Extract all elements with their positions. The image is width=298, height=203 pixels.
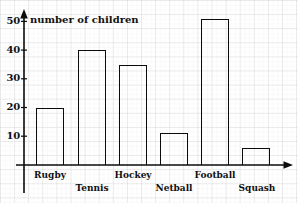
bar-tennis[interactable]	[78, 50, 106, 165]
bar-squash[interactable]	[242, 148, 270, 165]
bar-football[interactable]	[201, 19, 229, 165]
y-axis-title: number of children	[30, 14, 139, 25]
x-label-football: Football	[188, 170, 242, 180]
x-label-squash: Squash	[232, 183, 282, 193]
x-label-rugby: Rugby	[26, 170, 74, 180]
y-tick-label-20: 20	[0, 101, 20, 112]
bar-hockey[interactable]	[119, 65, 147, 165]
bar-rugby[interactable]	[36, 108, 64, 165]
bar-chart: number of children 50 40 30 20 10 Rugby …	[0, 0, 298, 203]
y-tick-label-10: 10	[0, 130, 20, 141]
y-tick-label-30: 30	[0, 72, 20, 83]
x-label-tennis: Tennis	[68, 183, 116, 193]
x-label-netball: Netball	[149, 183, 199, 193]
x-label-hockey: Hockey	[108, 170, 158, 180]
y-tick-label-50: 50	[0, 15, 20, 26]
bar-netball[interactable]	[160, 133, 188, 165]
y-tick-label-40: 40	[0, 44, 20, 55]
